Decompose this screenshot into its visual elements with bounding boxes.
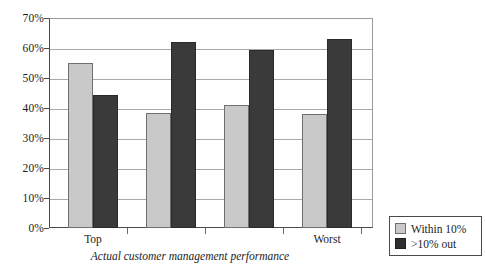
y-tick-label-70: 70% xyxy=(2,12,44,24)
x-tick-mark-2 xyxy=(205,228,206,234)
y-tick-label-50: 50% xyxy=(2,72,44,84)
y-tick-label-40: 40% xyxy=(2,102,44,114)
bar-group1-within10 xyxy=(68,63,93,228)
legend: Within 10% >10% out xyxy=(389,216,482,256)
y-tick-mark-20 xyxy=(44,168,49,169)
y-tick-mark-10 xyxy=(44,198,49,199)
bar-group1-over10 xyxy=(93,95,118,229)
y-tick-mark-40 xyxy=(44,108,49,109)
bars-layer xyxy=(49,18,373,228)
y-tick-label-30: 30% xyxy=(2,132,44,144)
legend-swatch-light-icon xyxy=(395,223,406,234)
y-tick-label-0: 0% xyxy=(2,222,44,234)
legend-item-within10: Within 10% xyxy=(395,221,477,236)
y-tick-label-60: 60% xyxy=(2,42,44,54)
y-tick-label-20: 20% xyxy=(2,162,44,174)
y-tick-mark-30 xyxy=(44,138,49,139)
bar-group2-over10 xyxy=(171,42,196,228)
x-tick-mark-4 xyxy=(361,228,362,234)
y-tick-label-10: 10% xyxy=(2,192,44,204)
x-cat-label-top: Top xyxy=(84,233,102,245)
legend-label-over10: >10% out xyxy=(411,238,456,250)
x-tick-mark-3 xyxy=(283,228,284,234)
legend-label-within10: Within 10% xyxy=(411,223,466,235)
x-axis-title: Actual customer management performance xyxy=(0,250,380,262)
x-cat-label-worst: Worst xyxy=(313,233,340,245)
bar-group2-within10 xyxy=(146,113,171,229)
bar-group3-over10 xyxy=(249,50,274,229)
y-tick-mark-0 xyxy=(44,228,49,229)
x-tick-mark-1 xyxy=(127,228,128,234)
bar-chart: 70% 60% 50% 40% 30% 20% 10% 0% Top Worst… xyxy=(0,0,486,273)
bar-group4-over10 xyxy=(327,39,352,228)
bar-group4-within10 xyxy=(302,114,327,228)
legend-swatch-dark-icon xyxy=(395,238,406,249)
y-tick-mark-60 xyxy=(44,48,49,49)
y-tick-mark-70 xyxy=(44,18,49,19)
bar-group3-within10 xyxy=(224,105,249,228)
legend-item-over10: >10% out xyxy=(395,236,477,251)
y-axis-labels: 70% 60% 50% 40% 30% 20% 10% 0% xyxy=(0,18,44,228)
y-tick-mark-50 xyxy=(44,78,49,79)
